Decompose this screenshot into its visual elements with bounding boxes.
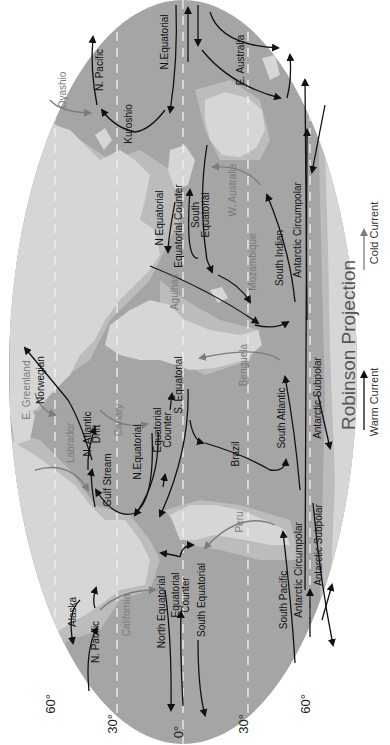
warm-current-label: Norwegian — [35, 356, 46, 404]
legend-cold-current: Cold Current — [364, 202, 380, 270]
warm-current-label: North Equatorial — [156, 576, 167, 648]
warm-current-label: E. Australia — [235, 34, 246, 85]
warm-current-label: Counter — [162, 412, 173, 448]
latitude-label: 60° — [298, 694, 313, 714]
warm-current-label: N.Equatorial — [132, 424, 143, 479]
cold-current-label: Peru — [234, 511, 245, 532]
warm-current-label: South Indian — [274, 230, 285, 286]
warm-current-label: Gulf Stream — [102, 453, 113, 506]
warm-current-label: Counter — [180, 577, 191, 613]
cold-current-label: Labrador — [65, 422, 76, 463]
cold-current-label: E. Greenland — [21, 361, 32, 420]
warm-current-label: South Pacific — [278, 571, 289, 629]
warm-current-label: N Equatorial — [154, 190, 165, 245]
warm-current-label: N. Pacific — [90, 621, 101, 663]
cold-current-label: Benguela — [238, 343, 249, 386]
warm-current-label: N.Equatorial — [159, 14, 170, 69]
projection-title: Robinson Projection — [338, 260, 359, 430]
warm-current-label: S. Equatorial — [173, 356, 184, 413]
legend-warm-label: Warm Current — [368, 368, 380, 437]
cold-current-label: Canary — [113, 404, 124, 436]
legend-cold-label: Cold Current — [368, 202, 380, 264]
warm-current-label: South Equatorial — [196, 563, 207, 637]
cold-current-label: California — [121, 593, 132, 636]
warm-current-label: Antarctic Circumpolar — [293, 522, 304, 618]
latitude-label: 0° — [171, 726, 186, 738]
cold-current-label: Agulhas — [169, 274, 180, 310]
cold-current-label: Mozambique — [247, 233, 258, 291]
cold-current-label: W. Australia — [227, 163, 238, 216]
legend: Cold Current Warm Current — [364, 202, 380, 437]
warm-current-label: Equatorial Counter — [173, 184, 184, 268]
warm-current-label: South Atlantic — [276, 387, 287, 448]
warm-current-label: Antarctic Subpolar — [313, 503, 324, 585]
cold-current-label: Oyashio — [57, 71, 68, 108]
warm-current-label: Drift — [91, 425, 102, 444]
latitude-label: 60° — [43, 694, 58, 714]
latitude-label: 30° — [105, 714, 120, 734]
warm-current-label: Equatorial — [200, 192, 211, 237]
warm-current-label: Antarctic Subpolar — [312, 356, 323, 438]
warm-current-label: Alaska — [67, 597, 78, 627]
legend-warm-current: Warm Current — [364, 368, 380, 437]
warm-current-label: Kuroshio — [123, 104, 134, 144]
latitude-label: 30° — [236, 714, 251, 734]
warm-current-label: Antarctic Circumpolar — [292, 182, 303, 278]
ocean-currents-map: N. PacificN.EquatorialE. AustraliaKurosh… — [0, 0, 390, 745]
warm-current-label: Brazil — [230, 441, 241, 466]
warm-current-label: N. Pacific — [94, 49, 105, 91]
